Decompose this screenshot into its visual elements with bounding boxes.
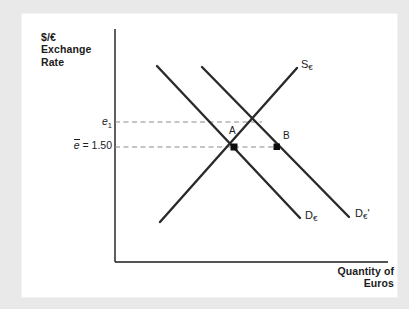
demand-prime-curve-label: D€' — [355, 207, 370, 221]
tick-label-e1: e1 — [60, 115, 112, 131]
demand-prime-label-text: D — [355, 207, 363, 219]
demand-prime-curve — [202, 67, 349, 217]
tick-ebar-value: = 1.50 — [80, 139, 112, 151]
demand-label-subscript: € — [313, 214, 317, 223]
point-label-a: A — [229, 125, 236, 137]
demand-label-text: D — [305, 209, 313, 221]
figure-page: $/€ Exchange Rate Quantity of Euros e1 e… — [0, 0, 409, 309]
tick-e1-subscript: 1 — [108, 121, 112, 130]
demand-prime-label-prime: ' — [367, 207, 369, 219]
tick-label-ebar: e = 1.50 — [38, 139, 112, 151]
point-marker-b — [274, 144, 281, 151]
supply-label-subscript: € — [308, 63, 312, 72]
supply-curve-label: S€ — [301, 58, 313, 72]
y-axis-label: $/€ Exchange Rate — [41, 31, 91, 68]
point-marker-a — [231, 144, 238, 151]
x-axis-label: Quantity of Euros — [286, 265, 394, 290]
point-label-b: B — [283, 130, 290, 142]
demand-curve-label: D€ — [305, 209, 317, 223]
